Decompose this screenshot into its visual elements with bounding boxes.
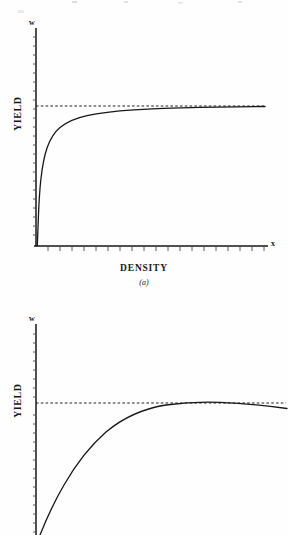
- yield-curve-a-main: [37, 107, 265, 246]
- scanned-page: w x YIELD DENSITY (a): [0, 0, 288, 535]
- figure-a: w x YIELD DENSITY (a): [0, 0, 288, 292]
- y-axis-title-a: YIELD: [12, 96, 23, 131]
- x-axis-title-a: DENSITY: [0, 263, 288, 273]
- y-axis-title-b: YIELD: [12, 383, 23, 418]
- figure-b-plot: [0, 292, 288, 535]
- figure-a-plot: [0, 0, 288, 292]
- yield-curve-b: [40, 402, 287, 535]
- y-axis-symbol-a: w: [29, 18, 35, 27]
- x-axis-symbol-a: x: [271, 239, 275, 248]
- figure-caption-a: (a): [0, 278, 288, 287]
- y-axis-symbol-b: w: [29, 314, 35, 323]
- figure-b: w YIELD: [0, 292, 288, 535]
